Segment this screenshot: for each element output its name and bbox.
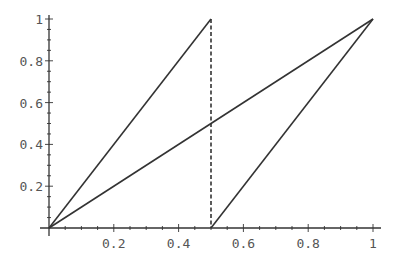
series-lines xyxy=(49,19,373,228)
y-tick-label: 0.8 xyxy=(20,54,43,69)
x-tick-label: 0.2 xyxy=(102,236,125,251)
x-tick-label: 0.6 xyxy=(232,236,255,251)
y-tick-label: 0.2 xyxy=(20,179,43,194)
series-sawtooth-left xyxy=(49,19,211,228)
x-tick-label: 0.8 xyxy=(296,236,319,251)
y-tick-labels: 0.20.40.60.81 xyxy=(20,12,44,194)
series-sawtooth-right xyxy=(211,19,373,228)
y-tick-label: 1 xyxy=(35,12,43,27)
x-tick-labels: 0.20.40.60.81 xyxy=(102,236,377,251)
x-tick-label: 1 xyxy=(369,236,377,251)
x-tick-label: 0.4 xyxy=(167,236,191,251)
y-tick-label: 0.4 xyxy=(20,137,44,152)
y-tick-label: 0.6 xyxy=(20,96,43,111)
chart-canvas: 0.20.40.60.81 0.20.40.60.81 xyxy=(0,0,401,256)
